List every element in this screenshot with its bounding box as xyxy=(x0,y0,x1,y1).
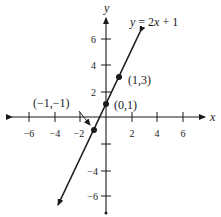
point-neg1-neg1 xyxy=(91,127,97,133)
point-label-neg1-neg1: (−1,−1) xyxy=(33,96,70,110)
x-tick-label: −2 xyxy=(74,128,85,139)
y-tick-label: 6 xyxy=(91,34,96,45)
x-axis: −6 −4 −2 2 4 6 x xyxy=(12,110,216,139)
y-tick-label: 2 xyxy=(91,87,96,98)
point-0-1 xyxy=(103,101,109,107)
y-tick-label: 4 xyxy=(91,60,96,71)
y-tick-label: −4 xyxy=(87,166,98,177)
x-tick-label: −4 xyxy=(50,128,61,139)
y-axis-label: y xyxy=(103,1,110,15)
line-y-2x-plus-1 xyxy=(58,32,140,205)
annotation-arrow xyxy=(79,111,90,125)
point-label-1-3: (1,3) xyxy=(128,73,151,87)
x-tick-label: 6 xyxy=(181,128,186,139)
y-axis: 6 4 2 −4 −6 y xyxy=(87,1,111,215)
point-label-0-1: (0,1) xyxy=(114,98,137,112)
x-tick-label: −6 xyxy=(24,128,35,139)
graph-canvas: −6 −4 −2 2 4 6 x 6 4 2 −4 −6 y y = 2x + … xyxy=(0,0,221,217)
x-tick-label: 2 xyxy=(130,128,135,139)
x-tick-label: 4 xyxy=(155,128,160,139)
equation-label: y = 2x + 1 xyxy=(129,15,178,29)
point-1-3 xyxy=(116,74,122,80)
x-axis-label: x xyxy=(209,110,216,124)
y-tick-label: −6 xyxy=(87,191,98,202)
